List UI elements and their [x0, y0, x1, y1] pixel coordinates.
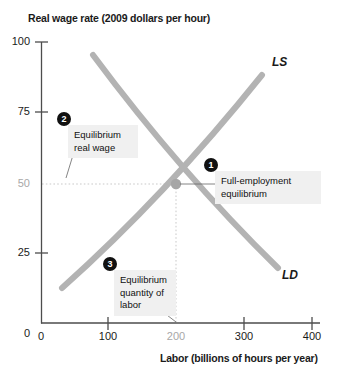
equilibrium-point-marker: [171, 179, 181, 189]
x-tick-label-0: 0: [24, 330, 58, 342]
callout-one-badge: 1: [204, 158, 218, 172]
callout-three-line2: quantity of: [120, 287, 171, 300]
callout-two-box: Equilibrium real wage: [68, 125, 138, 158]
callout-three-box: Equilibrium quantity of labor: [114, 270, 176, 316]
callout-one-box: Full-employment equilibrium: [215, 171, 321, 204]
y-tick-label-100: 100: [4, 35, 30, 47]
y-tick-label-50: 50: [4, 177, 30, 189]
x-axis-title: Labor (billions of hours per year): [160, 352, 318, 364]
callout-three-line1: Equilibrium: [120, 274, 171, 287]
x-tick-label-400: 400: [295, 330, 329, 342]
callout-one-line1: Full-employment: [221, 175, 316, 188]
labor-supply-curve-label: LS: [272, 55, 287, 69]
callout-three-line3: labor: [120, 299, 171, 312]
callout-two-line1: Equilibrium: [74, 129, 133, 142]
figure-container: Real wage rate (2009 dollars per hour) L…: [0, 0, 338, 374]
callout-two-line2: real wage: [74, 142, 133, 155]
y-tick-label-25: 25: [4, 246, 30, 258]
callout-one-line2: equilibrium: [221, 188, 316, 201]
x-tick-label-100: 100: [91, 330, 125, 342]
callout-three-badge: 3: [103, 257, 117, 271]
y-tick-label-75: 75: [4, 105, 30, 117]
y-axis-title: Real wage rate (2009 dollars per hour): [28, 12, 210, 24]
labor-demand-curve-label: LD: [282, 268, 298, 282]
callout-two-badge: 2: [57, 112, 71, 126]
x-tick-label-200: 200: [159, 330, 193, 342]
x-tick-label-300: 300: [227, 330, 261, 342]
